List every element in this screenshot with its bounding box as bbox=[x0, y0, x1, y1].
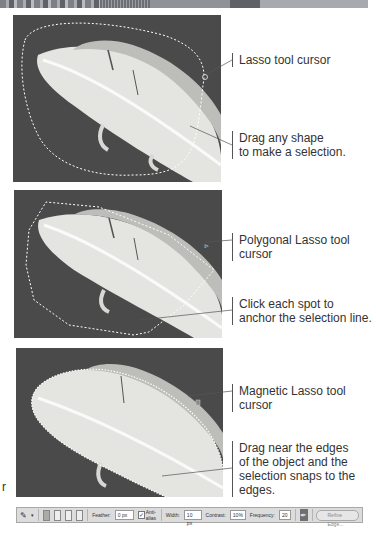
callout-line: Click each spot to bbox=[239, 297, 372, 311]
refine-edge-button[interactable]: Refine Edge... bbox=[316, 510, 359, 521]
stylus-pressure-icon[interactable]: ✒ bbox=[300, 509, 308, 521]
intersect-selection-button[interactable] bbox=[76, 510, 83, 521]
svg-text:⊳: ⊳ bbox=[204, 242, 209, 249]
contrast-label: Contrast: bbox=[206, 512, 226, 518]
frequency-input[interactable]: 20 bbox=[279, 510, 292, 520]
new-selection-button[interactable] bbox=[43, 510, 50, 521]
magnetic-lasso-instruction-callout: Drag near the edges of the object and th… bbox=[232, 441, 376, 497]
screen-strip-top bbox=[0, 0, 368, 8]
anti-alias-label: Anti-alias bbox=[146, 509, 157, 521]
callout-line: of the object and the bbox=[239, 455, 376, 469]
callout-line: Drag any shape bbox=[239, 131, 346, 145]
divider bbox=[161, 509, 162, 521]
add-to-selection-button[interactable] bbox=[54, 510, 61, 521]
contrast-input[interactable]: 10% bbox=[230, 510, 246, 520]
tool-preset-dropdown-icon[interactable]: ▾ bbox=[31, 510, 34, 520]
lasso-cursor-callout: Lasso tool cursor bbox=[232, 53, 330, 67]
callout-line: anchor the selection line. bbox=[239, 311, 372, 325]
options-bar: ✎ ▾ Feather: 0 px ✓ Anti-alias Width: 10… bbox=[16, 507, 363, 523]
width-label: Width: bbox=[166, 512, 180, 518]
callout-text: Magnetic Lasso tool cursor bbox=[239, 384, 346, 412]
lasso-example-photo bbox=[13, 15, 221, 182]
feather-input[interactable]: 0 px bbox=[115, 510, 134, 520]
divider bbox=[312, 509, 313, 521]
feather-label: Feather: bbox=[92, 512, 111, 518]
callout-line: to make a selection. bbox=[239, 145, 346, 159]
callout-text: Polygonal Lasso tool cursor bbox=[239, 233, 350, 261]
polygonal-lasso-cursor-callout: Polygonal Lasso tool cursor bbox=[232, 233, 376, 261]
divider bbox=[87, 509, 88, 521]
lasso-instruction-callout: Drag any shape to make a selection. bbox=[232, 131, 346, 159]
stray-text: r bbox=[2, 480, 6, 494]
callout-line: selection snaps to the edges. bbox=[239, 469, 376, 497]
anti-alias-checkbox[interactable]: ✓ Anti-alias bbox=[138, 509, 157, 521]
width-input[interactable]: 10 px bbox=[184, 510, 202, 520]
divider bbox=[295, 509, 296, 521]
feather-image: ⊳ bbox=[14, 190, 222, 338]
feather-image bbox=[13, 15, 221, 182]
subtract-from-selection-button[interactable] bbox=[65, 510, 72, 521]
magnetic-lasso-icon[interactable]: ✎ bbox=[20, 510, 27, 520]
magnetic-lasso-example-photo bbox=[16, 348, 223, 497]
polygonal-lasso-instruction-callout: Click each spot to anchor the selection … bbox=[232, 297, 372, 325]
frequency-label: Frequency: bbox=[250, 512, 275, 518]
callout-text: Lasso tool cursor bbox=[239, 53, 330, 67]
feather-image bbox=[16, 348, 223, 497]
divider bbox=[38, 509, 39, 521]
magnetic-lasso-cursor-callout: Magnetic Lasso tool cursor bbox=[232, 384, 376, 412]
polygonal-lasso-example-photo: ⊳ bbox=[14, 190, 222, 338]
checkmark-icon: ✓ bbox=[138, 511, 145, 519]
callout-line: Drag near the edges bbox=[239, 441, 376, 455]
